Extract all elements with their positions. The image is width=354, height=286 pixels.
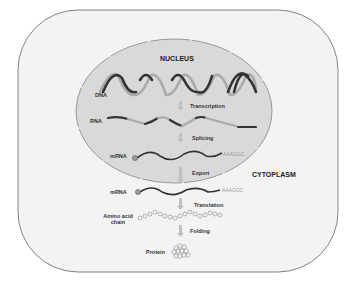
mrna-cytoplasm-label: mRNA (110, 189, 127, 195)
protein-label: Protein (146, 249, 165, 255)
mrna-nucleus-label: mRNA (110, 153, 127, 159)
step-export: Export (192, 170, 209, 176)
poly-a-nucleus: AAAGGC (223, 151, 244, 157)
step-translation: Translation (194, 202, 223, 208)
step-splicing: Splicing (192, 135, 213, 141)
poly-a-cytoplasm: AAAGGC (222, 187, 243, 193)
cytoplasm-title: CYTOPLASM (252, 171, 296, 178)
rna-label: RNA (90, 118, 102, 124)
step-folding: Folding (190, 228, 210, 234)
nucleus-title: NUCLEUS (160, 55, 194, 62)
diagram-canvas (0, 0, 354, 286)
dna-label: DNA (95, 92, 107, 98)
amino-acid-chain-label: Amino acid chain (102, 213, 134, 225)
step-transcription: Transcription (190, 103, 225, 109)
